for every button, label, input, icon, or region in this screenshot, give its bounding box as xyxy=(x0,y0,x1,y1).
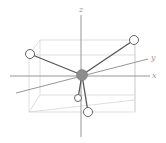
bond-top-left xyxy=(30,54,82,75)
y-axis-label: y xyxy=(151,54,156,62)
ligand-top-left xyxy=(26,50,35,59)
diagram-canvas xyxy=(0,0,166,143)
ligand-bottom-small xyxy=(75,95,82,102)
central-atom xyxy=(77,70,88,81)
x-axis-label: x xyxy=(152,72,157,80)
z-axis-label: z xyxy=(79,6,83,14)
ligand-top-right xyxy=(130,36,139,45)
ligand-bottom xyxy=(84,108,93,117)
molecule-diagram: z y x xyxy=(0,0,166,143)
